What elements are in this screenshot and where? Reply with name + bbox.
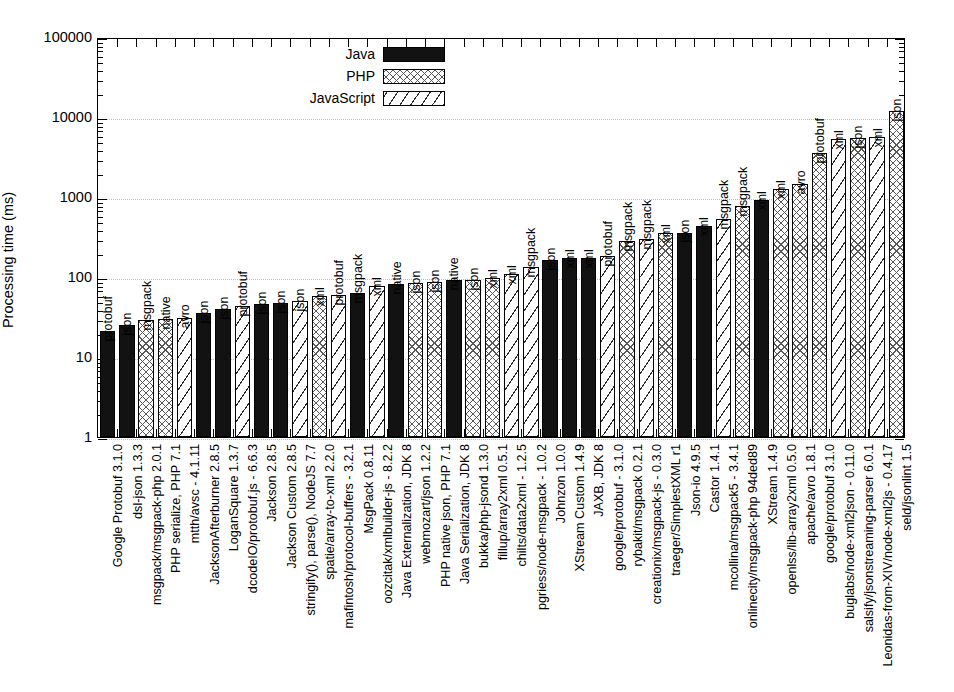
x-tick-top: [810, 39, 811, 47]
x-tick-bottom: [290, 429, 291, 437]
bar-value-tag: msgpack: [717, 180, 729, 230]
x-tick-top: [502, 39, 503, 47]
x-category-label: msgpack/msgpack-php 2.0.1: [151, 444, 164, 605]
x-category-label: salsify/jsonstreaming-parser 6.0.1: [863, 444, 876, 632]
x-tick-bottom: [310, 429, 311, 437]
x-tick-top: [752, 39, 753, 47]
x-category-label: webmozart/json 1.2.2: [420, 444, 433, 564]
x-tick-bottom: [598, 429, 599, 437]
x-category-label: Castor 1.4.1: [709, 444, 722, 513]
bar: [119, 325, 134, 437]
bar-value-tag: json: [198, 301, 210, 324]
bar: [331, 295, 346, 437]
x-tick-top: [714, 39, 715, 47]
bar-value-tag: protobuf: [236, 271, 248, 316]
x-tick-top: [540, 39, 541, 47]
x-tick-top: [771, 39, 772, 47]
legend-swatch-java: [383, 47, 445, 62]
bar: [369, 286, 384, 437]
bar: [273, 303, 288, 437]
x-category-label: onlinecity/msgpack-php 94ded89: [747, 444, 760, 628]
bar-value-tag: json: [544, 247, 556, 270]
x-category-label: Jackson Custom 2.8.5: [286, 444, 299, 569]
x-category-label: google/protobuf - 3.1.0: [613, 444, 626, 571]
x-tick-bottom: [579, 429, 580, 437]
x-tick-bottom: [560, 429, 561, 437]
bar: [562, 258, 577, 437]
bar: [427, 282, 442, 437]
y-axis-title: Processing time (ms): [0, 150, 16, 370]
bar-value-tag: msgpack: [525, 227, 537, 277]
x-tick-top: [136, 39, 137, 47]
x-tick-bottom: [117, 429, 118, 437]
y-tick-minor: [98, 137, 103, 138]
bar-value-tag: json: [679, 220, 691, 243]
bar: [831, 139, 846, 437]
x-tick-top: [213, 39, 214, 47]
y-tick-minor: [98, 223, 103, 224]
bar: [677, 233, 692, 438]
x-tick-bottom: [387, 429, 388, 437]
x-category-label: PHP native json, PHP 7.1: [440, 444, 453, 587]
x-category-label: bukka/php-jsond 1.3.0: [478, 444, 491, 568]
x-category-label: seld/jsonlint 1.5: [901, 444, 914, 531]
y-tick-minor: [98, 71, 103, 72]
plot-area: protobufjsonmsgpacknativeavrojsonjsonpro…: [97, 38, 905, 438]
bar: [696, 226, 711, 437]
y-tick-minor-right: [899, 81, 904, 82]
x-category-label: traeger/SimplestXML r1: [670, 444, 683, 576]
bar-value-tag: xml: [371, 277, 383, 296]
x-category-label: dcodeIO/protobuf.js - 6.6.3: [247, 444, 260, 593]
x-tick-bottom: [637, 429, 638, 437]
bar-value-tag: xml: [775, 180, 787, 199]
bar: [639, 239, 654, 437]
y-tick-minor-right: [899, 51, 904, 52]
x-tick-top: [887, 39, 888, 47]
y-tick-major-right: [895, 439, 904, 440]
y-tick-minor: [98, 161, 103, 162]
x-category-label: mtth/avsc - 4.1.11: [189, 444, 202, 543]
y-tick-major: [98, 439, 107, 440]
x-tick-bottom: [213, 429, 214, 437]
y-tick-minor: [98, 151, 103, 152]
legend: JavaPHPJavaScript: [245, 44, 445, 110]
bar-value-tag: msgpack: [621, 201, 633, 251]
bar-value-tag: json: [429, 270, 441, 293]
y-tick-major-right: [895, 39, 904, 40]
y-tick-label: 10: [76, 350, 92, 365]
gridline: [98, 439, 904, 440]
y-tick-major: [98, 39, 107, 40]
bar: [754, 200, 769, 437]
y-tick-minor: [98, 95, 103, 96]
x-tick-bottom: [464, 429, 465, 437]
x-category-label: pgriess/node-msgpack - 1.0.2: [536, 444, 549, 610]
x-tick-bottom: [829, 429, 830, 437]
bar-value-tag: json: [294, 289, 306, 312]
bar-value-tag: json: [275, 290, 287, 313]
x-tick-bottom: [887, 429, 888, 437]
y-tick-label: 1000: [60, 190, 92, 205]
x-tick-bottom: [540, 429, 541, 437]
x-tick-top: [579, 39, 580, 47]
x-tick-bottom: [752, 429, 753, 437]
x-category-label: creationix/msgpack-js - 0.3.0: [651, 444, 664, 604]
y-tick-minor: [98, 63, 103, 64]
y-tick-label: 10000: [52, 110, 92, 125]
bar: [523, 267, 538, 437]
gridline: [98, 119, 904, 120]
x-tick-bottom: [771, 429, 772, 437]
x-tick-top: [560, 39, 561, 47]
y-tick-major: [98, 119, 107, 120]
x-tick-top: [156, 39, 157, 47]
x-category-label: Java Externalization, JDK 8: [401, 444, 414, 598]
x-tick-bottom: [156, 429, 157, 437]
x-tick-bottom: [194, 429, 195, 437]
bar: [619, 241, 634, 437]
bar: [869, 137, 884, 437]
y-tick-minor: [98, 127, 103, 128]
x-category-label: fillup/array2xml 0.5.1: [497, 444, 510, 560]
bar-value-tag: xml: [506, 265, 518, 284]
x-tick-top: [637, 39, 638, 47]
y-tick-minor: [98, 81, 103, 82]
y-tick-minor-right: [899, 57, 904, 58]
